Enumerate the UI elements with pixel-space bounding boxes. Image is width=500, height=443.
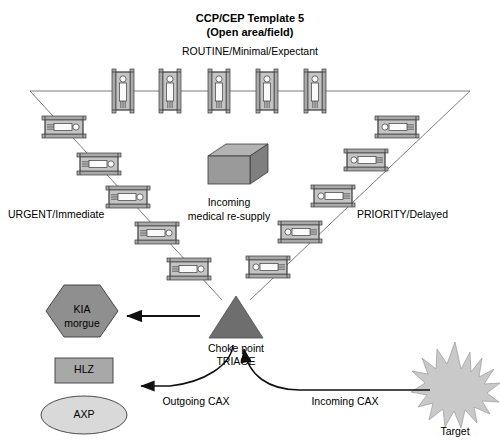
litter-icon <box>156 236 222 302</box>
litter-icon <box>31 94 97 160</box>
litter-icon <box>304 69 326 113</box>
outgoing-cax-label: Outgoing CAX <box>139 395 253 407</box>
page-subtitle: (Open area/field) <box>0 26 500 39</box>
axp-label: AXP <box>41 408 127 420</box>
litter-icon <box>235 234 301 300</box>
litter-icon <box>208 69 230 113</box>
litter-icon <box>256 69 278 113</box>
litter-icon <box>159 69 181 113</box>
triangle-icon <box>209 296 263 338</box>
routine-category-label: ROUTINE/Minimal/Expectant <box>125 45 375 57</box>
kia-morgue-label-line1: KIA <box>46 303 118 315</box>
triage-label-line2: TRIAGE <box>186 355 286 367</box>
resupply-label-line1: Incoming <box>179 196 279 208</box>
urgent-category-label: URGENT/Immediate <box>8 208 104 220</box>
incoming-cax-label: Incoming CAX <box>290 395 400 407</box>
litter-icon <box>112 69 134 113</box>
priority-category-label: PRIORITY/Delayed <box>357 208 448 220</box>
box-3d-icon <box>208 144 268 184</box>
litter-icon <box>267 199 333 265</box>
starburst-icon <box>411 342 500 428</box>
resupply-label-line2: medical re-supply <box>169 210 289 222</box>
kia-morgue-label-line2: morgue <box>46 317 118 329</box>
ccp-cep-template-diagram: CCP/CEP Template 5 (Open area/field) ROU… <box>0 0 500 443</box>
page-title: CCP/CEP Template 5 <box>0 12 500 25</box>
target-label: Target <box>425 425 485 437</box>
triage-label-line1: Choke point <box>186 342 286 354</box>
hlz-label: HLZ <box>55 363 113 375</box>
